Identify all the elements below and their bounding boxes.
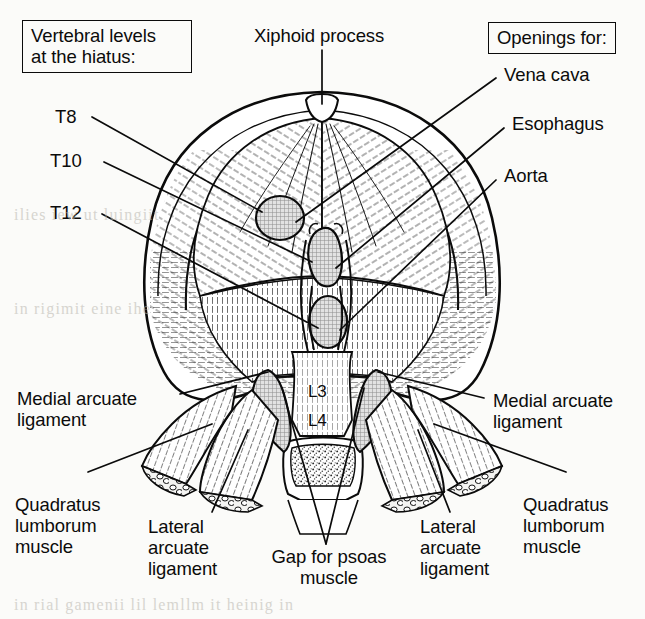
label-l3: L3 [308, 381, 327, 402]
label-quadratus-lumborum-left: Quadratus lumborum muscle [15, 494, 101, 557]
label-lateral-arcuate-ligament-left: Lateral arcuate ligament [148, 516, 217, 579]
label-medial-arcuate-ligament-right: Medial arcuate ligament [493, 390, 613, 432]
label-vena-cava: Vena cava [504, 64, 590, 85]
vena-cava-opening [256, 196, 304, 240]
label-aorta: Aorta [504, 165, 548, 186]
label-xiphoid-process: Xiphoid process [254, 25, 384, 46]
label-t12: T12 [50, 202, 82, 223]
label-esophagus: Esophagus [512, 113, 604, 134]
label-gap-for-psoas: Gap for psoas muscle [254, 546, 404, 588]
vertebral-levels-box: Vertebral levels at the hiatus: [22, 20, 192, 73]
label-t10: T10 [50, 150, 82, 171]
label-t8: T8 [55, 106, 76, 127]
label-quadratus-lumborum-right: Quadratus lumborum muscle [523, 494, 609, 557]
figure-page: Vertebral levels at the hiatus: T8 T10 T… [0, 0, 645, 619]
label-l4: L4 [308, 410, 327, 431]
label-lateral-arcuate-ligament-right: Lateral arcuate ligament [420, 516, 489, 579]
openings-for-box: Openings for: [488, 22, 616, 54]
label-medial-arcuate-ligament-left: Medial arcuate ligament [17, 388, 137, 430]
